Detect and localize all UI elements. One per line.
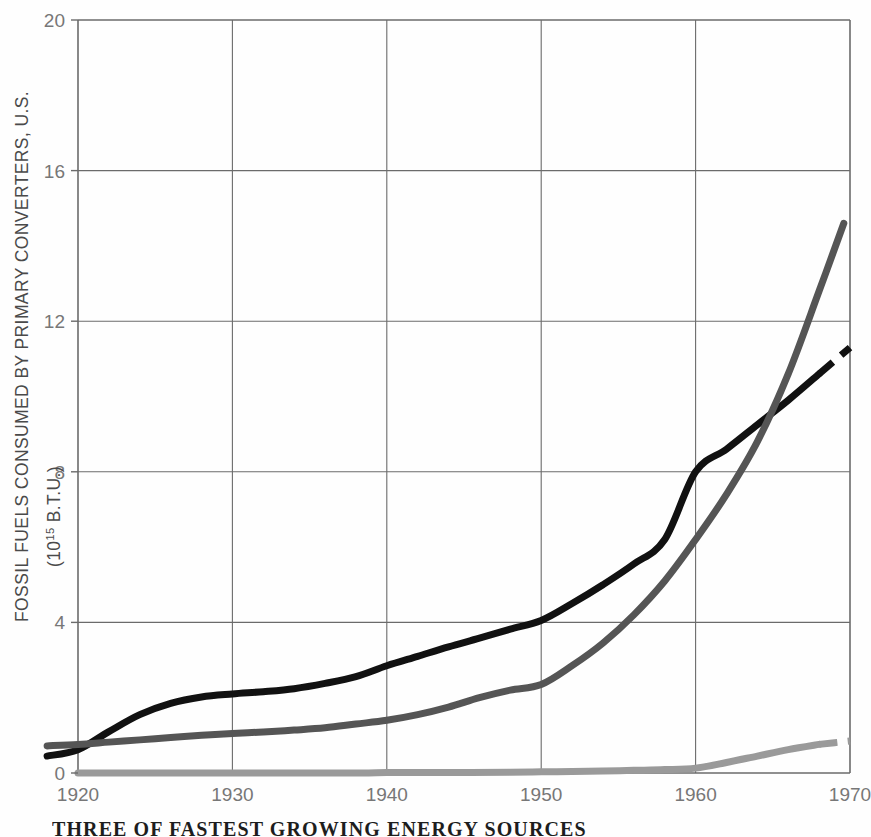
x-tick-label: 1940: [366, 784, 408, 805]
y-tick-label: 20: [44, 10, 65, 31]
grid-lines: [78, 20, 850, 773]
series-line-dashed-coal: [819, 348, 850, 374]
series-line-petroleum: [47, 223, 844, 746]
series-line-natural-gas: [78, 744, 819, 773]
y-tick-label: 16: [44, 161, 65, 182]
series-line-coal: [47, 374, 819, 756]
chart-plot: 048121620192019301940195019601970 FOSSIL…: [0, 0, 871, 837]
x-tick-label: 1960: [674, 784, 716, 805]
axis-ticks: 048121620192019301940195019601970: [44, 10, 871, 805]
y-tick-label: 12: [44, 311, 65, 332]
x-tick-label: 1970: [829, 784, 871, 805]
y-axis-units: (1015 B.T.U.): [44, 466, 64, 567]
y-axis-units-text: (1015 B.T.U.): [44, 466, 64, 567]
x-tick-label: 1950: [520, 784, 562, 805]
x-tick-label: 1930: [211, 784, 253, 805]
figure-container: 048121620192019301940195019601970 FOSSIL…: [0, 0, 871, 837]
x-tick-label: 1920: [57, 784, 99, 805]
y-axis-title: FOSSIL FUELS CONSUMED BY PRIMARY CONVERT…: [12, 91, 32, 622]
data-series-group: [47, 223, 850, 773]
y-tick-label: 0: [54, 763, 65, 784]
series-line-dashed-natural-gas: [819, 741, 850, 744]
y-tick-label: 4: [54, 612, 65, 633]
figure-caption: THREE OF FASTEST GROWING ENERGY SOURCES: [52, 818, 871, 837]
